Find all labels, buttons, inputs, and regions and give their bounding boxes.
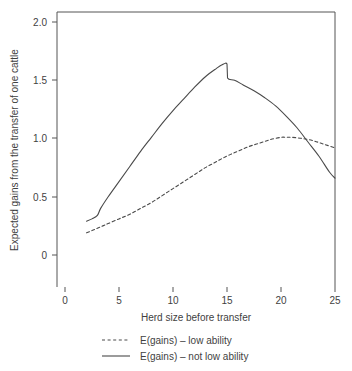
chart-legend: E(gains) – low ability E(gains) – not lo… xyxy=(102,335,248,362)
x-tick-label: 0 xyxy=(62,295,68,306)
legend-label-not-low-ability: E(gains) – not low ability xyxy=(140,351,248,362)
x-axis-title: Herd size before transfer xyxy=(141,312,252,323)
legend-label-low-ability: E(gains) – low ability xyxy=(140,335,232,346)
y-axis-ticks xyxy=(52,22,57,255)
chart-figure: 0 0.5 1.0 1.5 2.0 0 5 10 15 20 25 Herd s… xyxy=(0,0,352,371)
y-axis-title: Expected gains from the transfer of one … xyxy=(9,49,20,251)
y-tick-label: 1.5 xyxy=(33,75,47,86)
plot-panel-border xyxy=(57,12,335,287)
x-tick-label: 15 xyxy=(221,295,233,306)
line-chart: 0 0.5 1.0 1.5 2.0 0 5 10 15 20 25 Herd s… xyxy=(0,0,352,371)
y-tick-label: 2.0 xyxy=(33,17,47,28)
y-tick-label: 0.5 xyxy=(33,192,47,203)
x-axis-tick-labels: 0 5 10 15 20 25 xyxy=(62,295,341,306)
x-tick-label: 25 xyxy=(329,295,341,306)
x-tick-label: 5 xyxy=(116,295,122,306)
y-tick-label: 0 xyxy=(41,250,47,261)
series-group xyxy=(87,63,335,233)
x-tick-label: 10 xyxy=(167,295,179,306)
y-tick-label: 1.0 xyxy=(33,133,47,144)
series-line-low-ability xyxy=(87,137,335,233)
y-axis-tick-labels: 0 0.5 1.0 1.5 2.0 xyxy=(33,17,47,261)
x-tick-label: 20 xyxy=(275,295,287,306)
x-axis-ticks xyxy=(65,287,335,292)
series-line-not-low-ability xyxy=(87,63,335,221)
